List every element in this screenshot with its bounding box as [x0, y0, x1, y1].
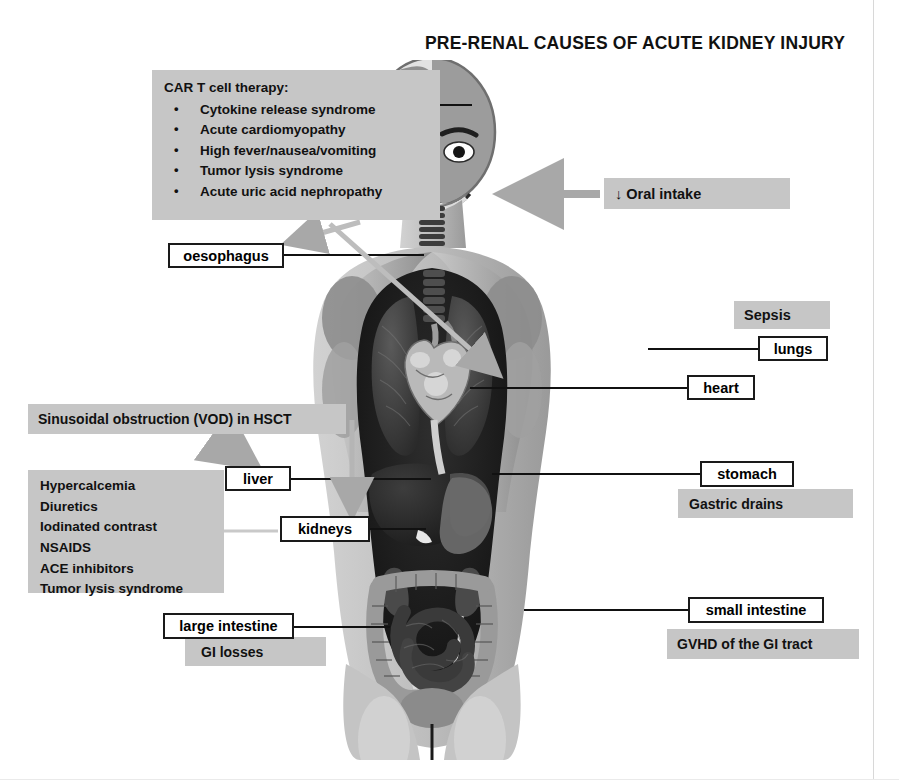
organ-label-stomach: stomach — [700, 461, 794, 487]
organ-label-lungs: lungs — [758, 336, 828, 361]
sepsis-box: Sepsis — [734, 301, 830, 329]
organ-label-small-intestine: small intestine — [688, 597, 824, 623]
drug-item: NSAIDS — [40, 538, 224, 559]
diagram-canvas: PRE-RENAL CAUSES OF ACUTE KIDNEY INJURY — [0, 0, 899, 780]
car-t-item: Acute cardiomyopathy — [164, 120, 430, 141]
gi-losses-box: GI losses — [185, 637, 326, 666]
gray-arrows-layer — [0, 0, 899, 780]
car-t-cell-therapy-box: CAR T cell therapy: Cytokine release syn… — [152, 70, 440, 220]
organ-label-heart: heart — [687, 375, 755, 400]
gvhd-label: GVHD of the GI tract — [677, 636, 812, 652]
car-t-item: Tumor lysis syndrome — [164, 161, 430, 182]
car-t-item: Acute uric acid nephropathy — [164, 182, 430, 203]
sepsis-label: Sepsis — [744, 307, 791, 323]
drug-item: ACE inhibitors — [40, 559, 224, 580]
car-t-heading: CAR T cell therapy: — [164, 78, 430, 99]
vod-box: Sinusoidal obstruction (VOD) in HSCT — [28, 404, 346, 434]
gastric-drains-box: Gastric drains — [678, 489, 853, 518]
gvhd-box: GVHD of the GI tract — [667, 629, 859, 659]
drug-item: Tumor lysis syndrome — [40, 579, 224, 600]
organ-label-kidneys: kidneys — [280, 516, 370, 542]
oral-intake-box: ↓ Oral intake — [604, 178, 790, 209]
organ-label-oesophagus: oesophagus — [168, 243, 284, 268]
organ-label-large-intestine: large intestine — [163, 613, 294, 639]
organ-label-liver: liver — [225, 466, 291, 491]
car-t-item: High fever/nausea/vomiting — [164, 141, 430, 162]
car-t-list: Cytokine release syndrome Acute cardiomy… — [164, 100, 430, 203]
oral-intake-label: ↓ Oral intake — [615, 186, 701, 202]
drug-item: Iodinated contrast — [40, 517, 224, 538]
nephrotoxic-causes-box: Hypercalcemia Diuretics Iodinated contra… — [28, 470, 224, 593]
vod-label: Sinusoidal obstruction (VOD) in HSCT — [38, 411, 292, 427]
drug-item: Hypercalcemia — [40, 476, 224, 497]
drug-item: Diuretics — [40, 497, 224, 518]
gi-losses-label: GI losses — [201, 644, 263, 660]
car-t-item: Cytokine release syndrome — [164, 100, 430, 121]
gastric-drains-label: Gastric drains — [689, 496, 783, 512]
